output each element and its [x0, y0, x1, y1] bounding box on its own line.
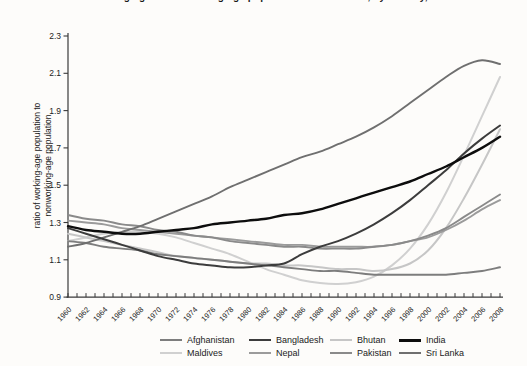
legend-label: Bangladesh — [276, 335, 324, 345]
x-tick-label: 1980 — [235, 305, 253, 323]
x-tick-label: 1984 — [271, 305, 289, 323]
series-line-nepal — [68, 200, 500, 247]
legend-swatch — [330, 339, 352, 341]
legend-item-afghanistan: Afghanistan — [160, 334, 249, 346]
series-line-pakistan — [68, 195, 500, 249]
line-chart-plot-area: 0.91.11.31.51.71.92.12.31960196219641966… — [0, 0, 527, 366]
x-tick-label: 1960 — [55, 305, 73, 323]
x-tick-label: 2000 — [415, 305, 433, 323]
y-tick-label: 1.9 — [49, 106, 61, 116]
x-tick-label: 1966 — [109, 305, 127, 323]
x-tick-label: 1988 — [307, 305, 325, 323]
y-tick-label: 1.3 — [49, 218, 61, 228]
y-tick-label: 0.9 — [49, 292, 61, 302]
x-tick-label: 1976 — [199, 305, 217, 323]
legend-item-nepal: Nepal — [249, 347, 330, 359]
chart-figure: Ratio of working-age to nonworking-age p… — [0, 0, 527, 366]
x-tick-label: 1986 — [289, 305, 307, 323]
x-tick-label: 1968 — [127, 305, 145, 323]
y-tick-label: 2.3 — [49, 31, 61, 41]
legend-label: India — [426, 335, 446, 345]
x-tick-label: 1982 — [253, 305, 271, 323]
legend-swatch — [330, 352, 352, 354]
legend-label: Pakistan — [357, 348, 392, 358]
legend-item-india: India — [399, 334, 495, 346]
legend-item-maldives: Maldives — [160, 347, 249, 359]
legend-item-bhutan: Bhutan — [330, 334, 399, 346]
x-tick-label: 1974 — [181, 305, 199, 323]
x-tick-label: 1964 — [91, 305, 109, 323]
legend-swatch — [399, 339, 421, 342]
x-tick-label: 1990 — [325, 305, 343, 323]
legend-label: Nepal — [276, 348, 300, 358]
x-tick-label: 1978 — [217, 305, 235, 323]
legend-swatch — [160, 339, 182, 341]
legend-swatch — [249, 352, 271, 354]
legend-swatch — [160, 352, 182, 354]
y-tick-label: 2.1 — [49, 68, 61, 78]
x-tick-label: 1998 — [397, 305, 415, 323]
chart-legend: AfghanistanBangladeshBhutanIndiaMaldives… — [160, 334, 495, 359]
series-line-india — [68, 137, 500, 234]
x-tick-label: 1970 — [145, 305, 163, 323]
legend-label: Bhutan — [357, 335, 386, 345]
x-tick-label: 2002 — [433, 305, 451, 323]
legend-label: Sri Lanka — [426, 348, 464, 358]
legend-item-sri-lanka: Sri Lanka — [399, 347, 495, 359]
legend-label: Afghanistan — [187, 335, 235, 345]
x-tick-label: 1972 — [163, 305, 181, 323]
x-tick-label: 1994 — [361, 305, 379, 323]
x-tick-label: 1992 — [343, 305, 361, 323]
legend-item-pakistan: Pakistan — [330, 347, 399, 359]
x-tick-label: 1962 — [73, 305, 91, 323]
x-tick-label: 2008 — [487, 305, 505, 323]
legend-item-bangladesh: Bangladesh — [249, 334, 330, 346]
x-tick-label: 2004 — [451, 305, 469, 323]
y-tick-label: 1.1 — [49, 255, 61, 265]
x-tick-label: 1996 — [379, 305, 397, 323]
legend-swatch — [249, 339, 271, 341]
series-line-sri-lanka — [68, 60, 500, 247]
legend-label: Maldives — [187, 348, 223, 358]
y-tick-label: 1.5 — [49, 180, 61, 190]
y-tick-label: 1.7 — [49, 143, 61, 153]
legend-swatch — [399, 352, 421, 354]
x-tick-label: 2006 — [469, 305, 487, 323]
